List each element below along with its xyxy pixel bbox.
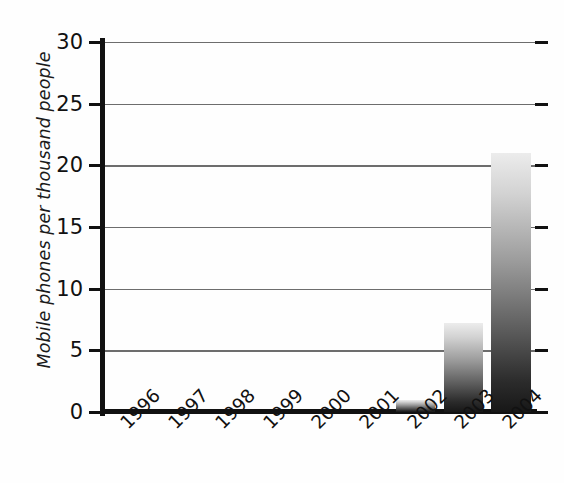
y-axis-tick-mark xyxy=(89,41,100,44)
y-axis-tick-label: 10 xyxy=(56,277,83,301)
y-axis-tick-mark-right xyxy=(535,349,548,352)
bar xyxy=(491,153,531,412)
y-axis-tick-mark-right xyxy=(535,226,548,229)
gridline xyxy=(105,289,535,290)
y-axis-tick-mark-right xyxy=(535,411,548,414)
y-axis-tick-label: 0 xyxy=(70,400,83,424)
gridline xyxy=(105,42,535,43)
bar-chart-figure: Mobile phones per thousand people 051015… xyxy=(0,0,564,483)
y-axis-tick-label: 30 xyxy=(56,30,83,54)
y-axis-tick-mark xyxy=(89,349,100,352)
y-axis-tick-mark-right xyxy=(535,103,548,106)
y-axis-tick-mark-right xyxy=(535,164,548,167)
y-axis-tick-mark-right xyxy=(535,288,548,291)
y-axis-tick-label: 15 xyxy=(56,215,83,239)
plot-area: 051015202530 xyxy=(105,42,535,412)
gridline xyxy=(105,227,535,228)
y-axis-tick-mark xyxy=(89,103,100,106)
y-axis-title: Mobile phones per thousand people xyxy=(34,45,54,375)
y-axis-tick-mark xyxy=(89,411,100,414)
y-axis-tick-mark xyxy=(89,288,100,291)
y-axis-tick-mark xyxy=(89,226,100,229)
y-axis-tick-mark xyxy=(89,164,100,167)
y-axis-tick-label: 20 xyxy=(56,153,83,177)
y-axis-tick-label: 5 xyxy=(70,338,83,362)
y-axis-tick-mark-right xyxy=(535,41,548,44)
gridline xyxy=(105,165,535,166)
y-axis-tick-label: 25 xyxy=(56,92,83,116)
gridline xyxy=(105,104,535,105)
